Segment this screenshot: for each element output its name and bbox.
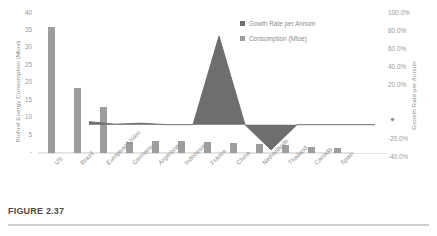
y-tick-left-20: 20 bbox=[10, 78, 32, 85]
y-tick-right-100: 100.0% bbox=[388, 9, 422, 16]
legend-item-1: Gowth Rate per Annum bbox=[240, 20, 315, 27]
x-label-us: US bbox=[53, 161, 58, 166]
chart-canvas: Biofuel Energy Consumption (Mtoe) Growth… bbox=[0, 0, 437, 196]
chart-legend: Gowth Rate per AnnumConsumption (Mtoe) bbox=[240, 20, 315, 50]
y-tick-right-20: 20.0% bbox=[388, 81, 422, 88]
y-tick-left-30: 30 bbox=[10, 43, 32, 50]
legend-label: Consumption (Mtoe) bbox=[249, 35, 307, 42]
y-tick-left-40: 40 bbox=[10, 9, 32, 16]
legend-swatch-icon bbox=[240, 36, 245, 41]
y-tick-right-60: 60.0% bbox=[388, 45, 422, 52]
figure-caption: FIGURE 2.37 bbox=[8, 206, 64, 216]
y-tick-right-neg40: -40.0% bbox=[388, 153, 422, 160]
y-tick-left-5: 5 bbox=[10, 131, 32, 138]
y-tick-left-10: 10 bbox=[10, 113, 32, 120]
bar-us bbox=[48, 27, 55, 153]
figure-container: Biofuel Energy Consumption (Mtoe) Growth… bbox=[0, 0, 437, 236]
y-tick-left-15: 15 bbox=[10, 96, 32, 103]
y-tick-right-40: 40.0% bbox=[388, 63, 422, 70]
y-tick-left-35: 35 bbox=[10, 26, 32, 33]
y-tick-right-zero-marker-icon bbox=[390, 117, 394, 121]
legend-item-2: Consumption (Mtoe) bbox=[240, 35, 315, 42]
y-axis-right-title: Growth Rate per Annum bbox=[410, 41, 417, 151]
y-tick-left-25: 25 bbox=[10, 61, 32, 68]
legend-swatch-icon bbox=[240, 21, 245, 26]
y-tick-right-neg20: -20.0% bbox=[388, 135, 422, 142]
legend-label: Gowth Rate per Annum bbox=[249, 20, 315, 27]
y-tick-right-80: 80.0% bbox=[388, 27, 422, 34]
caption-divider bbox=[8, 224, 429, 226]
y-tick-left-0: - bbox=[10, 148, 32, 155]
